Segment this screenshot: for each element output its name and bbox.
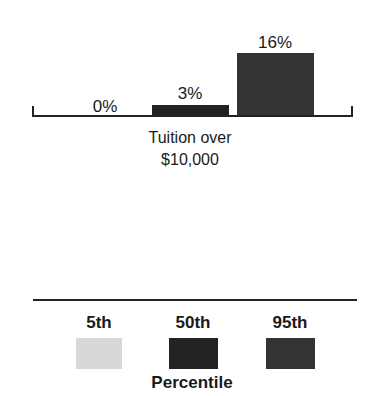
bar-95th — [237, 53, 314, 116]
category-label: Tuition over $10,000 — [110, 127, 270, 171]
legend-label-5th: 5th — [64, 313, 134, 333]
x-axis-right-tick — [351, 106, 353, 117]
bar-label-95th: 16% — [235, 34, 315, 52]
category-label-line2: $10,000 — [110, 149, 270, 171]
bar-label-50th: 3% — [150, 85, 230, 103]
x-axis-line — [32, 115, 353, 117]
legend-label-50th: 50th — [158, 313, 228, 333]
legend-swatch-5th — [76, 338, 122, 369]
bar-label-5th: 0% — [65, 98, 145, 116]
category-label-line1: Tuition over — [110, 127, 270, 149]
legend-label-95th: 95th — [255, 313, 325, 333]
legend-swatch-95th — [266, 338, 315, 369]
legend-title: Percentile — [122, 373, 262, 393]
legend-divider — [33, 299, 357, 301]
legend-swatch-50th — [169, 338, 218, 369]
x-axis-left-tick — [32, 106, 34, 117]
